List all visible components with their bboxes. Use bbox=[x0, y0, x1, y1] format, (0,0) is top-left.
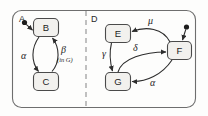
transition-label-alpha-A: α bbox=[21, 50, 27, 61]
state-B-label: B bbox=[43, 22, 49, 33]
transition-C-to-B[interactable] bbox=[52, 38, 58, 72]
transition-label-gamma: γ bbox=[102, 48, 107, 59]
transition-label-delta: δ bbox=[133, 42, 138, 53]
state-C-label: C bbox=[43, 76, 50, 87]
transition-label-alpha-D: α bbox=[150, 77, 156, 88]
state-E-label: E bbox=[115, 28, 121, 39]
transition-label-beta-guard: (in G) bbox=[57, 56, 73, 64]
state-G-label: G bbox=[114, 76, 121, 87]
statechart-diagram: A B C α β (in G) D E F G μ bbox=[0, 0, 208, 116]
transition-label-beta: β bbox=[60, 44, 66, 55]
initial-dot-F bbox=[184, 24, 189, 29]
region-label-D: D bbox=[91, 14, 98, 24]
transition-G-to-F[interactable] bbox=[118, 52, 166, 72]
initial-arrow-B bbox=[26, 24, 32, 30]
transition-label-mu: μ bbox=[147, 15, 153, 26]
state-F-label: F bbox=[177, 45, 183, 56]
transition-F-to-E[interactable] bbox=[132, 29, 170, 42]
diagram-canvas: A B C α β (in G) D E F G μ bbox=[0, 0, 208, 116]
transition-B-to-C[interactable] bbox=[33, 37, 39, 72]
initial-arrow-F bbox=[183, 29, 186, 40]
transition-E-to-G[interactable] bbox=[110, 43, 112, 71]
